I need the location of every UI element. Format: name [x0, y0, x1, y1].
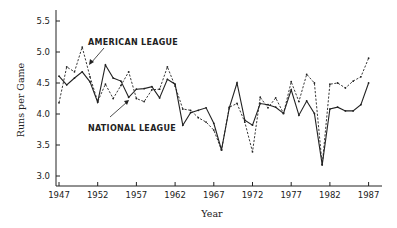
data-point	[290, 81, 292, 83]
data-point	[221, 149, 223, 151]
x-tick-label: 1982	[319, 190, 341, 200]
x-ticks: 194719521957196219671972197719821987	[48, 182, 379, 200]
data-point	[190, 109, 192, 111]
data-point	[314, 112, 316, 114]
data-point	[128, 71, 130, 73]
national-league-arrow	[110, 102, 127, 117]
data-point	[74, 77, 76, 79]
data-point	[275, 97, 277, 99]
data-point	[174, 83, 176, 85]
data-point	[143, 88, 145, 90]
data-point	[97, 101, 99, 103]
data-point	[306, 73, 308, 75]
data-point	[190, 112, 192, 114]
y-tick-label: 5.0	[36, 47, 50, 57]
data-point	[166, 78, 168, 80]
data-point	[66, 84, 68, 86]
data-point	[259, 103, 261, 105]
data-point	[66, 66, 68, 68]
american-league-annotation: AMERICAN LEAGUE	[88, 38, 178, 65]
data-point	[352, 110, 354, 112]
x-tick-label: 1947	[48, 190, 70, 200]
data-point	[81, 71, 83, 73]
data-point	[329, 108, 331, 110]
data-point	[267, 107, 269, 109]
data-point	[236, 82, 238, 84]
data-point	[368, 57, 370, 59]
data-point	[128, 96, 130, 98]
data-point	[344, 110, 346, 112]
data-point	[182, 124, 184, 126]
data-point	[151, 89, 153, 91]
american-league-label: AMERICAN LEAGUE	[88, 38, 178, 47]
national-league-line	[59, 65, 369, 165]
y-tick-label: 5.5	[36, 16, 50, 26]
data-point	[244, 121, 246, 123]
data-point	[197, 109, 199, 111]
data-point	[267, 104, 269, 106]
data-point	[337, 82, 339, 84]
data-point	[159, 97, 161, 99]
data-point	[112, 77, 114, 79]
data-point	[197, 117, 199, 119]
national-league-label: NATIONAL LEAGUE	[88, 124, 176, 133]
data-point	[290, 89, 292, 91]
data-point	[205, 121, 207, 123]
y-tick-label: 3.5	[36, 140, 50, 150]
x-axis-title: Year	[200, 208, 223, 219]
data-point	[329, 83, 331, 85]
data-point	[89, 76, 91, 78]
national-league-annotation: NATIONAL LEAGUE	[88, 100, 176, 133]
data-point	[259, 96, 261, 98]
american-league-arrow	[91, 48, 104, 63]
data-point	[314, 82, 316, 84]
data-point	[112, 98, 114, 100]
data-point	[136, 88, 138, 90]
x-tick-label: 1957	[126, 190, 148, 200]
data-point	[58, 75, 60, 77]
data-point	[275, 106, 277, 108]
x-tick-label: 1962	[164, 190, 186, 200]
data-point	[213, 122, 215, 124]
data-point	[298, 101, 300, 103]
x-tick-label: 1977	[280, 190, 302, 200]
series-lines	[58, 46, 369, 166]
y-axis-title: Runs per Game	[15, 62, 26, 137]
data-point	[58, 102, 60, 104]
y-tick-label: 4.5	[36, 78, 50, 88]
data-point	[321, 164, 323, 166]
data-point	[105, 83, 107, 85]
data-point	[81, 46, 83, 48]
data-point	[228, 107, 230, 109]
data-point	[337, 106, 339, 108]
data-point	[182, 108, 184, 110]
data-point	[120, 80, 122, 82]
data-point	[360, 104, 362, 106]
data-point	[166, 66, 168, 68]
data-point	[151, 86, 153, 88]
x-tick-label: 1967	[203, 190, 225, 200]
x-tick-label: 1987	[358, 190, 380, 200]
data-point	[74, 71, 76, 73]
x-tick-label: 1972	[242, 190, 264, 200]
y-tick-label: 4.0	[36, 109, 50, 119]
data-point	[89, 81, 91, 83]
data-point	[360, 76, 362, 78]
data-point	[306, 100, 308, 102]
data-point	[244, 119, 246, 121]
runs-per-game-chart: 3.03.54.04.55.05.5 194719521957196219671…	[0, 0, 397, 228]
data-point	[368, 82, 370, 84]
data-point	[298, 114, 300, 116]
data-point	[344, 87, 346, 89]
data-point	[159, 88, 161, 90]
data-point	[283, 112, 285, 114]
data-point	[252, 124, 254, 126]
y-tick-label: 3.0	[36, 171, 50, 181]
data-point	[213, 129, 215, 131]
data-point	[120, 85, 122, 87]
data-point	[236, 103, 238, 105]
x-tick-label: 1952	[87, 190, 109, 200]
data-point	[136, 98, 138, 100]
data-point	[352, 80, 354, 82]
data-point	[105, 64, 107, 66]
